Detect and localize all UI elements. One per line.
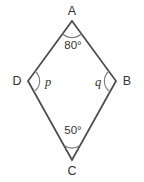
- vertex-label-c: C: [67, 164, 76, 178]
- angle-arc-d: [36, 72, 40, 91]
- angle-label-b-q: q: [95, 75, 101, 89]
- vertex-label-a: A: [68, 4, 77, 18]
- kite-diagram-svg: A B C D 80° p q 50°: [0, 0, 144, 182]
- vertex-label-d: D: [12, 74, 21, 88]
- angle-label-c-50deg: 50°: [64, 124, 81, 136]
- angle-arc-b: [104, 72, 108, 91]
- angle-label-d-p: p: [44, 75, 51, 89]
- angle-arc-c: [65, 146, 80, 149]
- angle-label-a-80deg: 80°: [64, 39, 81, 51]
- vertex-label-b: B: [123, 74, 131, 88]
- angle-arc-a: [63, 34, 82, 38]
- geometry-figure: A B C D 80° p q 50°: [0, 0, 144, 182]
